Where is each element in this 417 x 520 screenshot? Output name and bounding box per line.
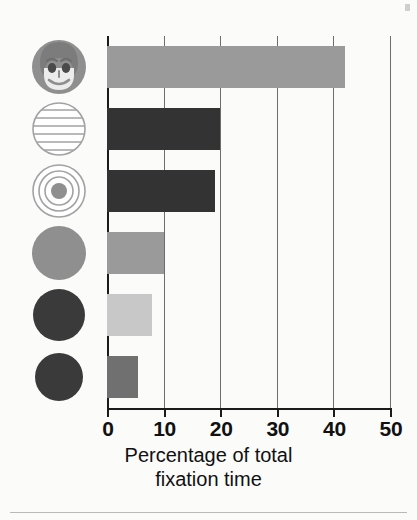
tick-mark-50 <box>390 408 392 417</box>
tick-mark-0 <box>107 408 109 417</box>
gray-disc-icon <box>30 224 88 282</box>
icon-slot-gray-disc <box>28 222 90 284</box>
bar-face <box>107 46 345 88</box>
plot-area <box>107 36 390 408</box>
x-axis-title-line-1: Percentage of total <box>0 444 417 468</box>
striped-circle-icon <box>30 100 88 158</box>
x-axis-line <box>107 408 391 410</box>
x-axis-title-line-2: fixation time <box>0 468 417 492</box>
dark-disc-small-icon <box>34 352 84 402</box>
tick-mark-40 <box>333 408 335 417</box>
icon-slot-face <box>28 36 90 98</box>
concentric-circles-icon <box>30 162 88 220</box>
bar-concentric-circles <box>107 170 215 212</box>
bar-solid-dark-circle-large <box>107 294 152 336</box>
tick-label-50: 50 <box>380 417 403 441</box>
face-icon <box>30 38 88 96</box>
tick-mark-30 <box>277 408 279 417</box>
tick-mark-10 <box>164 408 166 417</box>
tick-label-20: 20 <box>210 417 233 441</box>
tick-label-40: 40 <box>323 417 346 441</box>
dark-disc-large-icon <box>32 288 86 342</box>
tick-label-0: 0 <box>102 417 113 441</box>
bar-row <box>107 356 390 398</box>
gridline-10 <box>164 36 165 408</box>
tick-mark-20 <box>220 408 222 417</box>
y-axis-line <box>107 36 109 408</box>
bar-chart-figure: 01020304050 Percentage of total fixation… <box>0 0 417 520</box>
icon-slot-dark-disc-large <box>28 284 90 346</box>
icon-slot-dark-disc-small <box>28 346 90 408</box>
icon-slot-concentric-circles <box>28 160 90 222</box>
bar-solid-dark-circle-small <box>107 356 138 398</box>
bar-row <box>107 294 390 336</box>
bar-row <box>107 232 390 274</box>
gridline-30 <box>277 36 278 408</box>
icon-slot-striped-circle <box>28 98 90 160</box>
bar-horizontal-stripes-circle <box>107 108 220 150</box>
bar-row <box>107 108 390 150</box>
tick-label-10: 10 <box>153 417 176 441</box>
bar-row <box>107 46 390 88</box>
gridline-20 <box>220 36 221 408</box>
bar-row <box>107 170 390 212</box>
x-axis-title: Percentage of total fixation time <box>0 444 417 491</box>
tick-label-30: 30 <box>266 417 289 441</box>
scan-artifact <box>405 4 410 11</box>
gridline-40 <box>333 36 334 408</box>
footer-rule <box>10 512 407 513</box>
gridline-50 <box>390 36 391 408</box>
bar-solid-medium-gray-circle <box>107 232 164 274</box>
